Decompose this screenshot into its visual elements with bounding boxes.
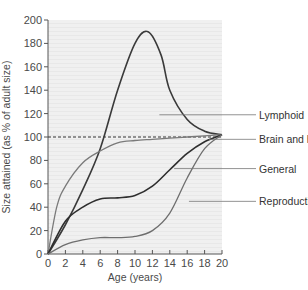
y-tick-label: 140	[24, 84, 42, 96]
growth-chart: 020406080100120140160180200 024681012141…	[0, 0, 308, 290]
y-axis-ticks: 020406080100120140160180200	[24, 14, 48, 260]
y-tick-label: 40	[30, 201, 42, 213]
y-axis-label: Size attained (as % of adult size)	[0, 61, 12, 214]
x-tick-label: 6	[97, 257, 103, 269]
y-tick-label: 20	[30, 225, 42, 237]
y-tick-label: 160	[24, 61, 42, 73]
x-tick-label: 16	[181, 257, 193, 269]
x-tick-label: 10	[129, 257, 141, 269]
x-tick-label: 8	[115, 257, 121, 269]
x-tick-label: 4	[80, 257, 86, 269]
x-axis-label: Age (years)	[108, 271, 162, 283]
legend-label-reproductive: Reproductive	[259, 195, 308, 207]
legend-label-brain-and-head: Brain and head	[259, 133, 308, 145]
legend-label-lymphoid: Lymphoid	[259, 109, 304, 121]
x-tick-label: 0	[45, 257, 51, 269]
x-tick-label: 14	[164, 257, 176, 269]
y-tick-label: 60	[30, 178, 42, 190]
legend-label-general: General	[259, 163, 296, 175]
y-tick-label: 120	[24, 108, 42, 120]
x-tick-label: 2	[62, 257, 68, 269]
y-tick-label: 80	[30, 154, 42, 166]
x-tick-label: 12	[146, 257, 158, 269]
x-tick-label: 20	[216, 257, 228, 269]
y-tick-label: 0	[36, 248, 42, 260]
x-tick-label: 18	[198, 257, 210, 269]
y-tick-label: 180	[24, 37, 42, 49]
y-tick-label: 100	[24, 131, 42, 143]
y-tick-label: 200	[24, 14, 42, 26]
